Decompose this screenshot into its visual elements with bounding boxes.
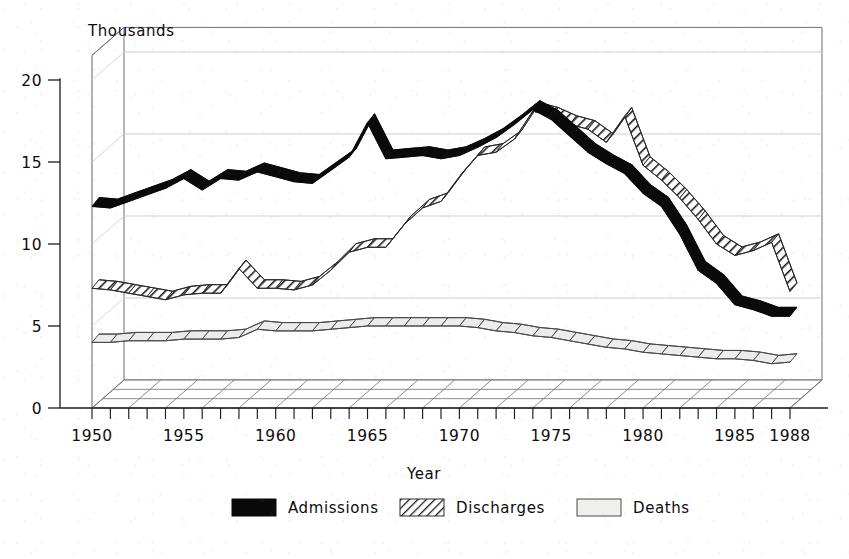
y-tick-label: 0 xyxy=(32,400,42,418)
x-tick-label: 1970 xyxy=(439,427,480,445)
legend-swatch xyxy=(577,499,621,516)
x-tick-label: 1960 xyxy=(255,427,296,445)
legend-label: Discharges xyxy=(456,499,545,517)
x-tick-label: 1950 xyxy=(71,427,112,445)
y-tick-label: 15 xyxy=(21,154,42,172)
legend-swatch xyxy=(400,499,444,516)
x-axis-ticks xyxy=(92,408,790,419)
y-axis-unit-label: Thousands xyxy=(87,22,175,40)
legend-label: Deaths xyxy=(633,499,690,517)
x-axis-tick-labels: 195019551960196519701975198019851988 xyxy=(71,427,810,445)
chart-figure: 05101520 1950195519601965197019751980198… xyxy=(0,0,849,559)
legend-item-discharges: Discharges xyxy=(400,499,545,517)
x-axis-title: Year xyxy=(406,465,441,483)
y-tick-label: 20 xyxy=(21,72,42,90)
legend-swatch xyxy=(232,499,276,516)
x-tick-label: 1980 xyxy=(622,427,663,445)
legend-label: Admissions xyxy=(288,499,379,517)
legend-item-deaths: Deaths xyxy=(577,499,690,517)
x-tick-label: 1988 xyxy=(769,427,810,445)
x-tick-label: 1965 xyxy=(347,427,388,445)
y-tick-label: 5 xyxy=(32,318,42,336)
x-tick-label: 1985 xyxy=(714,427,755,445)
chart-canvas: 05101520 1950195519601965197019751980198… xyxy=(0,0,849,559)
plot-floor-grid xyxy=(92,380,822,408)
y-axis-tick-labels: 05101520 xyxy=(21,72,42,418)
y-tick-label: 10 xyxy=(21,236,42,254)
y-axis-ticks xyxy=(48,80,60,408)
chart-legend: AdmissionsDischargesDeaths xyxy=(232,499,690,517)
x-tick-label: 1955 xyxy=(163,427,204,445)
legend-item-admissions: Admissions xyxy=(232,499,379,517)
x-tick-label: 1975 xyxy=(530,427,571,445)
